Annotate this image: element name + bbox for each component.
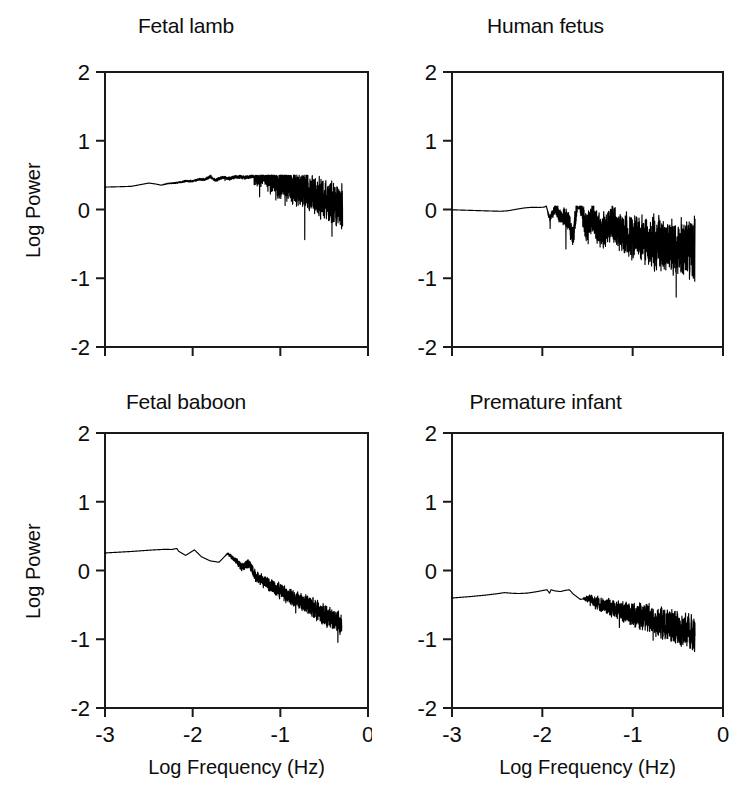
plot-frame — [105, 433, 368, 708]
figure-root: Fetal lamb Log Power 210-1-2 Human fetus… — [0, 0, 743, 793]
x-tick-label: -2 — [533, 722, 553, 747]
plot-frame — [452, 72, 723, 347]
y-tick-label: 2 — [425, 421, 437, 446]
spectrum-trace — [452, 590, 695, 652]
panel-premature-infant: Premature infant 210-1-2-3-2-10Log Frequ… — [348, 390, 743, 793]
y-tick-label: -1 — [417, 627, 437, 652]
y-tick-label: 1 — [78, 129, 90, 154]
plot-area-fetal-baboon: 210-1-2-3-2-10Log Frequency (Hz) — [0, 390, 372, 793]
y-tick-label: -2 — [70, 696, 90, 721]
spectrum-trace — [105, 549, 342, 643]
y-tick-label: -1 — [70, 266, 90, 291]
y-tick-label: 0 — [425, 559, 437, 584]
plot-area-fetal-lamb: 210-1-2 — [0, 14, 372, 394]
y-tick-label: 2 — [78, 421, 90, 446]
y-tick-label: 0 — [425, 198, 437, 223]
panel-title: Premature infant — [348, 390, 743, 414]
plot-area-premature-infant: 210-1-2-3-2-10Log Frequency (Hz) — [348, 390, 743, 793]
y-tick-label: -2 — [417, 696, 437, 721]
y-tick-label: 2 — [78, 60, 90, 85]
y-tick-label: 1 — [425, 129, 437, 154]
y-axis-label: Log Power — [22, 162, 45, 258]
y-tick-label: -1 — [417, 266, 437, 291]
plot-frame — [452, 433, 723, 708]
y-tick-label: 0 — [78, 559, 90, 584]
panel-title: Fetal lamb — [0, 14, 372, 38]
spectrum-trace — [452, 206, 695, 297]
x-tick-label: 0 — [717, 722, 729, 747]
x-tick-label: -1 — [623, 722, 643, 747]
x-tick-label: -3 — [95, 722, 115, 747]
panel-fetal-baboon: Fetal baboon Log Power 210-1-2-3-2-10Log… — [0, 390, 372, 793]
y-tick-label: -2 — [70, 335, 90, 360]
y-tick-label: -1 — [70, 627, 90, 652]
x-axis-label: Log Frequency (Hz) — [499, 756, 676, 778]
spectrum-trace — [105, 175, 343, 239]
y-tick-label: 1 — [78, 490, 90, 515]
panel-human-fetus: Human fetus 210-1-2 — [348, 14, 743, 394]
x-tick-label: -2 — [183, 722, 203, 747]
y-tick-label: 0 — [78, 198, 90, 223]
panel-fetal-lamb: Fetal lamb Log Power 210-1-2 — [0, 14, 372, 394]
x-axis-label: Log Frequency (Hz) — [148, 756, 325, 778]
y-tick-label: 1 — [425, 490, 437, 515]
panel-title: Fetal baboon — [0, 390, 372, 414]
y-tick-label: -2 — [417, 335, 437, 360]
x-tick-label: -1 — [271, 722, 291, 747]
y-axis-label: Log Power — [22, 523, 45, 619]
plot-area-human-fetus: 210-1-2 — [348, 14, 743, 394]
panel-title: Human fetus — [348, 14, 743, 38]
y-tick-label: 2 — [425, 60, 437, 85]
x-tick-label: -3 — [442, 722, 462, 747]
